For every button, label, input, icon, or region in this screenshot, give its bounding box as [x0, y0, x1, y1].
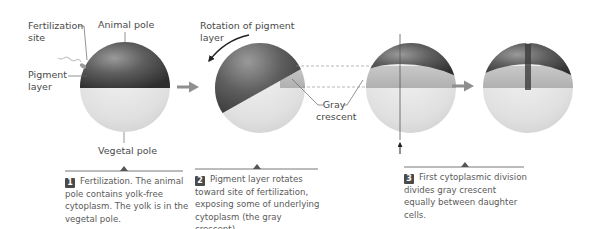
- pigment-layer-label-line1: Pigment: [28, 69, 67, 81]
- step-1-caption: 1Fertilization. The animal pole contains…: [65, 175, 189, 225]
- caption-dividers: [65, 162, 524, 171]
- egg-stage-3: [366, 34, 456, 154]
- fertilization-site-label-line2: site: [28, 32, 83, 44]
- fertilization-site-label-line1: Fertilization: [28, 20, 83, 32]
- pigment-layer-label: Pigment layer: [28, 69, 67, 93]
- step-3-text: First cytoplasmic division divides gray …: [404, 172, 527, 220]
- step-1-text: Fertilization. The animal pole contains …: [65, 176, 188, 224]
- gray-crescent-label-line2: crescent: [316, 111, 352, 123]
- animal-pole-label: Animal pole: [98, 19, 154, 31]
- step-2-caption: 2Pigment layer rotates toward site of fe…: [195, 173, 323, 229]
- egg-stage-4: [483, 40, 573, 133]
- step-1-number-badge: 1: [65, 178, 75, 188]
- fertilization-site-label: Fertilization site: [28, 20, 83, 44]
- gray-crescent-label-line1: Gray: [316, 99, 352, 111]
- dashed-guide-lines: [296, 66, 378, 87]
- pigment-layer-label-line2: layer: [28, 81, 67, 93]
- rotation-label-line2: layer: [200, 32, 294, 44]
- step-2-number-badge: 2: [195, 176, 205, 186]
- step-3-caption: 3First cytoplasmic division divides gray…: [404, 171, 528, 221]
- vegetal-pole-label: Vegetal pole: [98, 145, 157, 157]
- gray-crescent-label: Gray crescent: [316, 99, 352, 123]
- rotation-label: Rotation of pigment layer: [200, 20, 294, 44]
- step-3-number-badge: 3: [404, 174, 414, 184]
- rotation-label-line1: Rotation of pigment: [200, 20, 294, 32]
- arrow-stage-1-to-2: [177, 82, 199, 93]
- step-2-text: Pigment layer rotates toward site of fer…: [195, 174, 320, 229]
